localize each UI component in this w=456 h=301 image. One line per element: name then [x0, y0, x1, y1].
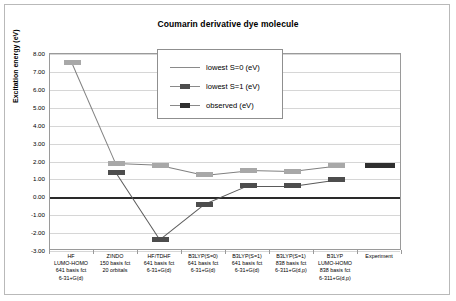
data-point-marker[interactable]	[240, 168, 257, 173]
y-axis-tick-label: 5.00	[5, 103, 45, 110]
gridline	[50, 144, 400, 145]
legend-entry[interactable]: lowest S=0 (eV)	[158, 58, 284, 76]
y-axis-tick-label: -1.00	[5, 211, 45, 218]
gridline	[50, 215, 400, 216]
x-axis-tick	[401, 250, 402, 254]
y-axis-tick-label: -3.00	[5, 247, 45, 254]
y-axis-tick-label: 4.00	[5, 121, 45, 128]
y-axis-tick-label: 8.00	[5, 50, 45, 57]
data-point-marker[interactable]	[240, 183, 257, 188]
legend-swatch-icon	[170, 84, 200, 89]
data-point-marker[interactable]	[196, 172, 213, 177]
legend-label: observed (eV)	[206, 101, 254, 110]
series-line-segment	[115, 172, 160, 240]
legend-entry[interactable]: observed (eV)	[158, 96, 284, 114]
series-line-segment	[160, 204, 205, 240]
data-point-marker[interactable]	[152, 163, 169, 168]
y-axis-tick-label: 2.00	[5, 157, 45, 164]
data-point-marker[interactable]	[108, 161, 125, 166]
gridline	[50, 162, 400, 163]
data-point-marker[interactable]	[328, 177, 345, 182]
gridline	[50, 233, 400, 234]
data-point-marker[interactable]	[108, 170, 125, 175]
data-point-marker[interactable]	[328, 163, 345, 168]
y-axis-tick-label: 7.00	[5, 68, 45, 75]
y-axis-tick-label: 6.00	[5, 85, 45, 92]
legend-swatch-icon	[170, 65, 200, 70]
legend-swatch-icon	[170, 103, 200, 108]
series-line-segment	[71, 62, 116, 164]
data-point-marker[interactable]	[152, 237, 169, 242]
y-axis-tick-label: -2.00	[5, 229, 45, 236]
x-axis-label-line: LUMO-HOMO	[307, 260, 363, 267]
x-axis-label-line: 838 basis fct	[307, 267, 363, 274]
data-point-marker[interactable]	[365, 163, 395, 168]
legend-entry[interactable]: lowest S=1 (eV)	[158, 77, 284, 95]
chart-frame: Coumarin derivative dye molecule Excitat…	[4, 4, 450, 295]
data-point-marker[interactable]	[196, 202, 213, 207]
x-axis-label-line: Experiment	[351, 253, 407, 260]
chart-title: Coumarin derivative dye molecule	[5, 19, 451, 29]
gridline	[50, 126, 400, 127]
x-axis-label-line: 6-311+G(d,p)	[307, 275, 363, 282]
zero-axis-line	[50, 197, 400, 199]
y-axis-tick-label: 1.00	[5, 175, 45, 182]
data-point-marker[interactable]	[284, 183, 301, 188]
chart-legend: lowest S=0 (eV)lowest S=1 (eV)observed (…	[157, 49, 283, 119]
data-point-marker[interactable]	[284, 169, 301, 174]
y-axis-tick-label: 3.00	[5, 139, 45, 146]
y-axis-tick-label: 0.00	[5, 193, 45, 200]
x-axis-label-line: 6-31+G(d)	[43, 275, 99, 282]
legend-label: lowest S=0 (eV)	[206, 63, 260, 72]
x-axis-category-label: Experiment	[351, 253, 407, 260]
legend-label: lowest S=1 (eV)	[206, 82, 260, 91]
gridline	[50, 179, 400, 180]
data-point-marker[interactable]	[64, 60, 81, 65]
